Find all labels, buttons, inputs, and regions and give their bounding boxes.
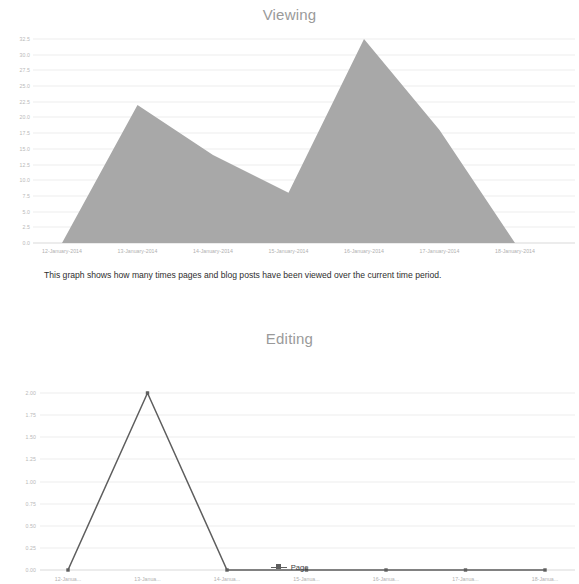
line-marker-icon [271, 563, 287, 571]
editing-x-tick-label: 17-Janua... [452, 576, 479, 582]
editing-x-tick-label: 12-Janua... [55, 576, 82, 582]
editing-plot-area: 2.001.751.501.251.000.750.500.250.00 12-… [0, 351, 579, 546]
viewing-chart-title: Viewing [0, 0, 579, 27]
viewing-x-tick-label: 13-January-2014 [118, 248, 158, 254]
viewing-x-tick-label: 12-January-2014 [42, 248, 82, 254]
editing-data-point-marker[interactable] [146, 391, 149, 394]
legend-item-page[interactable]: Page [271, 562, 309, 572]
viewing-area-path [62, 39, 515, 243]
viewing-x-tick-label: 18-January-2014 [495, 248, 535, 254]
legend-item-label: Page [291, 563, 309, 572]
viewing-x-tick-label: 17-January-2014 [420, 248, 460, 254]
editing-chart-panel: Editing 2.001.751.501.251.000.750.500.25… [0, 324, 579, 584]
viewing-description: This graph shows how many times pages an… [44, 268, 544, 282]
editing-line-path [68, 393, 545, 570]
editing-chart-legend: Page [0, 562, 579, 572]
viewing-area-series [0, 27, 579, 242]
editing-x-tick-label: 14-Janua... [214, 576, 241, 582]
viewing-x-tick-label: 15-January-2014 [269, 248, 309, 254]
editing-x-tick-label: 16-Janua... [373, 576, 400, 582]
viewing-x-tick-label: 14-January-2014 [193, 248, 233, 254]
editing-x-tick-label: 15-Janua... [293, 576, 320, 582]
editing-line-series [0, 351, 579, 546]
viewing-x-tick-label: 16-January-2014 [344, 248, 384, 254]
editing-x-tick-label: 13-Janua... [134, 576, 161, 582]
editing-x-tick-label: 18-Janua... [532, 576, 559, 582]
viewing-chart-panel: Viewing 32.530.027.525.022.520.017.515.0… [0, 0, 579, 258]
editing-gridline [40, 547, 575, 548]
editing-chart-title: Editing [0, 324, 579, 351]
viewing-plot-area: 32.530.027.525.022.520.017.515.012.510.0… [0, 27, 579, 242]
